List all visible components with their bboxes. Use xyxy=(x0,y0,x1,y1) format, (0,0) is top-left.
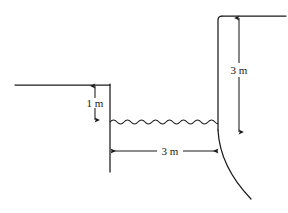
channel-width-label: 3 m xyxy=(162,145,179,157)
one-meter-label: 1 m xyxy=(87,97,104,109)
one-meter-vertical-dimension: 1 m xyxy=(87,86,104,120)
figure-container: 1 m 3 m 3 m xyxy=(0,0,288,213)
three-meter-horizontal-dimension: 3 m xyxy=(111,145,218,157)
curved-spillway-face xyxy=(218,130,251,199)
wavy-water-line xyxy=(110,120,218,124)
three-meter-vertical-dimension: 3 m xyxy=(231,18,248,132)
wall-height-label: 3 m xyxy=(231,64,248,76)
downstream-vertical-wall xyxy=(218,16,222,130)
diagram-canvas: 1 m 3 m 3 m xyxy=(0,0,288,213)
